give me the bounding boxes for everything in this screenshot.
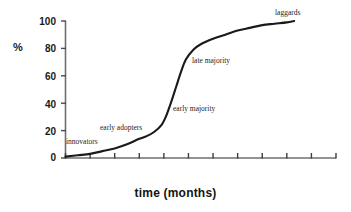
y-tick-label-0: 0 xyxy=(30,153,56,163)
y-tick-label-40: 40 xyxy=(30,100,56,110)
y-tick-label-20: 20 xyxy=(30,127,56,137)
annotation-early-adopters: early adopters xyxy=(100,124,142,132)
annotation-innovators: innovators xyxy=(66,138,98,146)
y-tick-label-60: 60 xyxy=(30,72,56,82)
x-axis-title: time (months) xyxy=(0,186,351,200)
annotation-laggards: laggards xyxy=(275,9,300,17)
chart-figure: % 100 80 60 40 20 0 innovators early ado… xyxy=(0,0,351,212)
y-tick-label-100: 100 xyxy=(30,17,56,27)
annotation-early-majority: early majority xyxy=(173,105,215,113)
axes-group xyxy=(61,21,336,159)
adoption-curve xyxy=(66,21,295,157)
y-axis-title: % xyxy=(13,42,23,53)
y-tick-label-80: 80 xyxy=(30,44,56,54)
annotation-late-majority: late majority xyxy=(192,57,230,65)
